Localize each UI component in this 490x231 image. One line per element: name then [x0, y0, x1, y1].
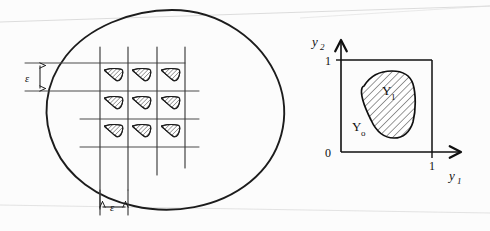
- blob-region-outline: [46, 10, 284, 210]
- y2-axis-label-subscript: 2: [320, 42, 325, 52]
- figure-canvas: ε ε y 2 y 1 1 0 1 Y o Y 1: [0, 0, 490, 231]
- y2-tick-label-1: 1: [325, 54, 331, 68]
- cell-shape: [162, 97, 180, 109]
- outer-region-label-subscript: o: [361, 128, 366, 138]
- cell-shape: [133, 69, 151, 81]
- y1-axis-label-subscript: 1: [457, 176, 462, 186]
- left-panel-group: [25, 10, 284, 215]
- origin-label: 0: [325, 146, 331, 160]
- cell-shape: [162, 125, 180, 137]
- inner-region-label-subscript: 1: [391, 92, 396, 102]
- cell-shape: [162, 69, 180, 81]
- cell-shape: [105, 69, 123, 81]
- y1-axis-label: y: [447, 168, 455, 183]
- y2-axis-label: y: [310, 34, 318, 49]
- cell-shape: [105, 97, 123, 109]
- inner-region-hatch: [361, 71, 415, 138]
- cell-shape: [133, 97, 151, 109]
- vertical-epsilon-label: ε: [25, 73, 30, 84]
- cell-shape: [133, 125, 151, 137]
- cell-shape: [105, 125, 123, 137]
- y1-tick-label-1: 1: [429, 159, 435, 173]
- cell-shape-grid: [105, 69, 180, 137]
- figure-root: ε ε y 2 y 1 1 0 1 Y o Y 1: [0, 0, 490, 231]
- right-panel-group: [336, 41, 460, 158]
